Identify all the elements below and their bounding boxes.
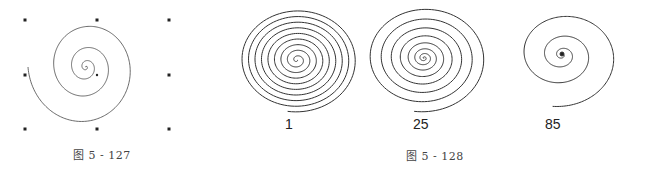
caption-fig-128: 图 5 - 128 (406, 147, 464, 163)
spiral-label-1: 1 (285, 116, 293, 132)
figure-canvas (0, 0, 652, 170)
spiral-label-25: 25 (413, 116, 429, 132)
spiral-label-85: 85 (545, 116, 561, 132)
spiral-figure-127 (28, 26, 130, 121)
spiral-expansion-25 (370, 9, 484, 111)
spiral-expansion-1 (242, 11, 355, 112)
caption-fig-127: 图 5 - 127 (73, 146, 131, 162)
spiral-expansion-85 (524, 16, 614, 106)
